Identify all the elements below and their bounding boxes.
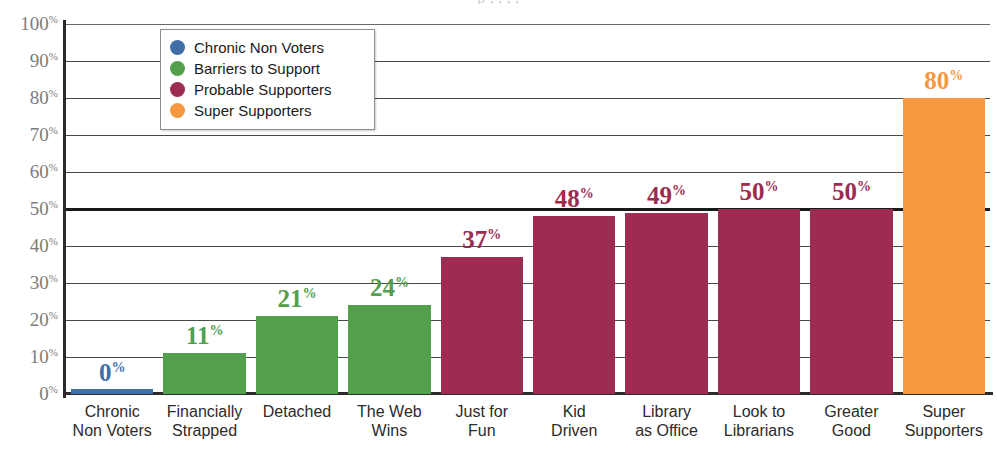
bar: 50%: [810, 209, 892, 394]
x-axis-label-line: Just for: [436, 402, 528, 421]
chart-legend: Chronic Non VotersBarriers to SupportPro…: [160, 29, 375, 130]
x-axis-label-line: The Web: [343, 402, 435, 421]
bar-value-label: 48%: [555, 186, 594, 211]
bar: 48%: [533, 216, 615, 394]
bar-chart: 100%90%80%70%60%50%40%30%20%10%0% 0%11%2…: [0, 0, 997, 463]
x-axis-label-line: Kid: [528, 402, 620, 421]
x-axis-label-line: as Office: [620, 421, 712, 440]
legend-item-3[interactable]: Super Supporters: [170, 100, 365, 121]
bar-fill: [256, 316, 338, 394]
y-tick-label-40: 40%: [0, 236, 58, 255]
legend-swatch-circle-icon: [170, 61, 185, 76]
x-axis-label: Just forFun: [436, 402, 528, 440]
legend-swatch-circle-icon: [170, 40, 185, 55]
legend-item-2[interactable]: Probable Supporters: [170, 79, 365, 100]
legend-item-label: Chronic Non Voters: [194, 40, 324, 55]
bar-fill: [810, 209, 892, 394]
x-axis-label-line: Non Voters: [66, 421, 158, 440]
bar-fill: [348, 305, 430, 394]
bar-value-label: 50%: [739, 179, 778, 204]
y-tick-label-50: 50%: [0, 199, 58, 218]
x-axis-label: Detached: [251, 402, 343, 421]
y-tick-label-90: 90%: [0, 51, 58, 70]
bar: 49%: [625, 213, 707, 394]
x-axis-label-line: Supporters: [898, 421, 990, 440]
x-axis-label: SuperSupporters: [898, 402, 990, 440]
x-axis-label-line: Librarians: [713, 421, 805, 440]
legend-item-label: Super Supporters: [194, 103, 312, 118]
bar-fill: [903, 98, 985, 394]
bar: 11%: [163, 353, 245, 394]
y-tick-label-60: 60%: [0, 162, 58, 181]
x-axis-label-line: Driven: [528, 421, 620, 440]
bar: 50%: [718, 209, 800, 394]
bar-value-label: 50%: [832, 179, 871, 204]
x-axis-label-line: Look to: [713, 402, 805, 421]
x-axis-label: Look toLibrarians: [713, 402, 805, 440]
bar: 24%: [348, 305, 430, 394]
bar-fill: [71, 389, 153, 394]
x-axis-label: FinanciallyStrapped: [158, 402, 250, 440]
y-tick-label-30: 30%: [0, 273, 58, 292]
bar-value-label: 21%: [277, 286, 316, 311]
x-axis-label: The WebWins: [343, 402, 435, 440]
bar-value-label: 80%: [924, 68, 963, 93]
y-tick-label-10: 10%: [0, 347, 58, 366]
bar: 0%: [71, 389, 153, 394]
bar-value-label: 24%: [370, 275, 409, 300]
bar: 37%: [441, 257, 523, 394]
x-axis-label-line: Library: [620, 402, 712, 421]
y-tick-label-70: 70%: [0, 125, 58, 144]
bar-fill: [625, 213, 707, 394]
y-tick-label-0: 0%: [0, 384, 58, 403]
x-axis-label: GreaterGood: [805, 402, 897, 440]
bar-fill: [718, 209, 800, 394]
x-axis-label-line: Good: [805, 421, 897, 440]
legend-item-0[interactable]: Chronic Non Voters: [170, 37, 365, 58]
y-tick-label-80: 80%: [0, 88, 58, 107]
x-axis-label-line: Super: [898, 402, 990, 421]
legend-swatch-circle-icon: [170, 103, 185, 118]
x-axis-label-line: Wins: [343, 421, 435, 440]
x-axis-label-line: Chronic: [66, 402, 158, 421]
x-axis-label-line: Financially: [158, 402, 250, 421]
bar: 80%: [903, 98, 985, 394]
y-tick-label-20: 20%: [0, 310, 58, 329]
bar-fill: [441, 257, 523, 394]
legend-item-1[interactable]: Barriers to Support: [170, 58, 365, 79]
legend-swatch-circle-icon: [170, 82, 185, 97]
bar-value-label: 37%: [462, 227, 501, 252]
bar-value-label: 49%: [647, 183, 686, 208]
bar-fill: [533, 216, 615, 394]
bar-value-label: 0%: [99, 360, 126, 385]
x-axis-label: ChronicNon Voters: [66, 402, 158, 440]
y-tick-label-100: 100%: [0, 14, 58, 33]
x-axis-label-line: Detached: [251, 402, 343, 421]
bar-value-label: 11%: [186, 323, 224, 348]
bar: 21%: [256, 316, 338, 394]
x-axis-label: Libraryas Office: [620, 402, 712, 440]
legend-item-label: Probable Supporters: [194, 82, 332, 97]
x-axis-label-line: Fun: [436, 421, 528, 440]
x-axis-label: KidDriven: [528, 402, 620, 440]
bar-fill: [163, 353, 245, 394]
x-axis-label-line: Greater: [805, 402, 897, 421]
legend-item-label: Barriers to Support: [194, 61, 320, 76]
x-axis-label-line: Strapped: [158, 421, 250, 440]
